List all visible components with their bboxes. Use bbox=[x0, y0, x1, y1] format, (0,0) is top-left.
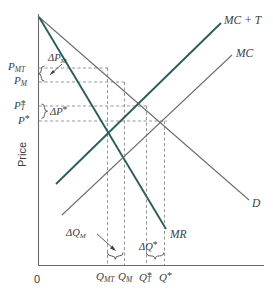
demand-curve bbox=[39, 17, 249, 200]
y-tick-p-m-base: P bbox=[14, 74, 21, 86]
y-tick-p-star-mark: * bbox=[25, 113, 30, 124]
y-tick-p-t-star: P*T bbox=[14, 99, 25, 112]
y-tick-p-star-base: P bbox=[18, 114, 25, 126]
annotation-delta-q-star-mark: * bbox=[153, 239, 158, 250]
y-tick-p-star: P* bbox=[18, 114, 30, 126]
x-tick-q-t-star-base: Q bbox=[139, 271, 147, 283]
annotation-delta-q-m-base: ΔQ bbox=[66, 227, 80, 238]
diagram-canvas bbox=[0, 0, 273, 297]
y-tick-p-t-star-sub: T bbox=[21, 103, 25, 112]
x-tick-q-m-sub: M bbox=[126, 275, 132, 284]
y-tick-p-m-sub: M bbox=[21, 79, 27, 88]
y-tick-p-mt-base: P bbox=[8, 60, 15, 72]
x-tick-q-star: Q* bbox=[159, 271, 172, 283]
x-tick-q-star-base: Q bbox=[159, 271, 167, 283]
annotation-delta-p-m-sub: M bbox=[61, 57, 67, 65]
quantity-guide-lines bbox=[108, 68, 165, 265]
annotation-delta-p-star: ΔP* bbox=[50, 105, 67, 117]
annotation-delta-p-star-base: ΔP bbox=[50, 106, 63, 117]
economics-diagram: Price 0 PMT PM P*T P* QMT QM Q*T Q* MC +… bbox=[0, 0, 273, 297]
annotation-delta-q-star: ΔQ* bbox=[139, 240, 158, 252]
curve-label-mc-plus-t: MC + T bbox=[224, 15, 261, 27]
annotation-delta-p-m: ΔPM bbox=[48, 53, 67, 65]
curve-label-mc: MC bbox=[236, 48, 253, 60]
y-tick-p-mt: PMT bbox=[8, 61, 25, 73]
delta-p-m-annotation bbox=[38, 64, 62, 81]
x-tick-q-m-base: Q bbox=[118, 270, 126, 282]
x-tick-q-t-star: Q*T bbox=[139, 271, 151, 284]
curve-label-demand: D bbox=[252, 198, 260, 210]
x-tick-q-t-star-sub: T bbox=[147, 275, 151, 284]
annotation-delta-q-star-base: ΔQ bbox=[139, 241, 153, 252]
curve-label-mr: MR bbox=[170, 229, 187, 241]
x-tick-q-mt: QMT bbox=[96, 271, 114, 283]
annotation-delta-q-m: ΔQM bbox=[66, 228, 86, 240]
y-axis-title: Price bbox=[16, 142, 28, 167]
x-tick-q-m: QM bbox=[118, 271, 132, 283]
annotation-delta-q-m-sub: M bbox=[80, 232, 86, 240]
x-tick-q-mt-sub: MT bbox=[104, 275, 114, 284]
x-tick-q-mt-base: Q bbox=[96, 270, 104, 282]
y-tick-p-m: PM bbox=[14, 75, 27, 87]
marginal-cost-plus-tax-curve bbox=[56, 23, 221, 184]
marginal-cost-curve bbox=[62, 55, 232, 215]
origin-label: 0 bbox=[34, 274, 40, 285]
x-tick-q-star-mark: * bbox=[167, 270, 172, 281]
annotation-delta-p-star-mark: * bbox=[63, 104, 68, 115]
delta-q-m-brace bbox=[108, 253, 124, 260]
delta-q-star-annotation bbox=[147, 253, 164, 260]
delta-q-m-annotation bbox=[97, 234, 123, 259]
delta-q-star-brace bbox=[147, 253, 164, 260]
annotation-delta-p-m-base: ΔP bbox=[48, 52, 61, 63]
y-tick-p-mt-sub: MT bbox=[15, 65, 25, 74]
y-tick-p-t-star-base: P bbox=[14, 99, 21, 111]
